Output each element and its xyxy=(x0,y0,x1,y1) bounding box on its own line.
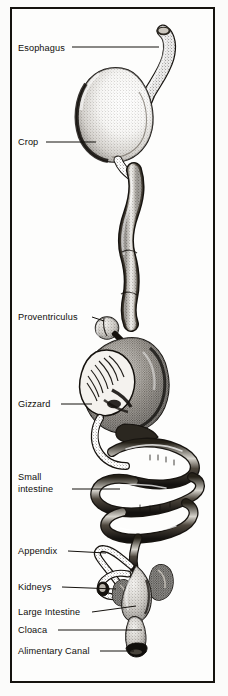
label-small-intestine: Smallintestine xyxy=(18,472,53,495)
label-small-intestine-line2: intestine xyxy=(18,484,53,494)
label-large-intestine: Large Intestine xyxy=(18,607,80,619)
label-kidneys: Kidneys xyxy=(18,582,51,594)
label-cloaca: Cloaca xyxy=(18,625,47,637)
organ-crop xyxy=(77,68,153,176)
label-crop: Crop xyxy=(18,137,38,149)
label-proventriculus: Proventriculus xyxy=(18,312,78,324)
organ-descending-tube xyxy=(121,170,137,324)
label-appendix: Appendix xyxy=(18,546,57,558)
label-esophagus: Esophagus xyxy=(18,43,65,55)
label-small-intestine-line1: Small xyxy=(18,472,41,482)
label-gizzard: Gizzard xyxy=(18,399,50,411)
label-alimentary-canal: Alimentary Canal xyxy=(18,646,90,658)
figure-page: Esophagus Crop Proventriculus Gizzard Sm… xyxy=(0,0,228,696)
